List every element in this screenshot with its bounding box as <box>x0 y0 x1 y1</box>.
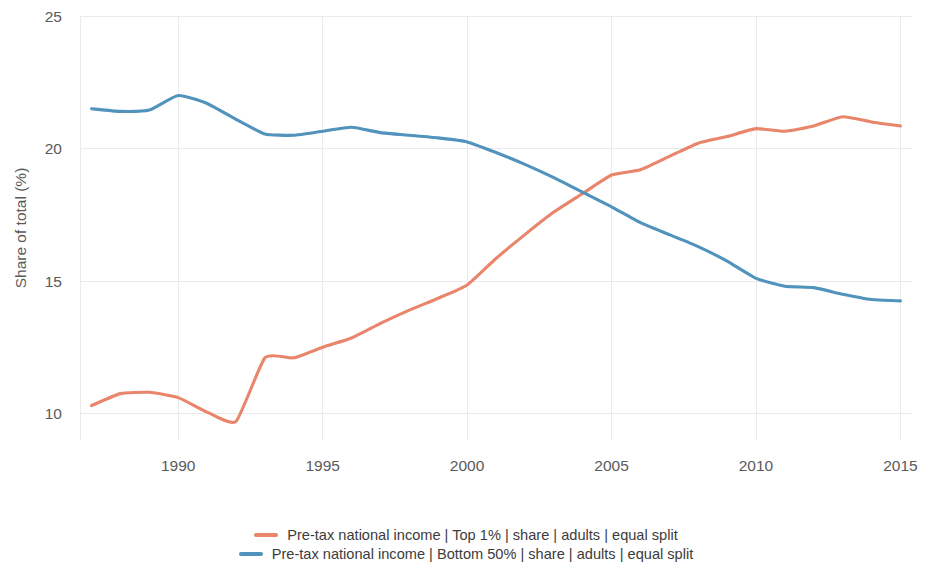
legend-item-bottom50[interactable]: Pre-tax national income | Bottom 50% | s… <box>239 546 694 562</box>
y-axis-ticks: 10152025 <box>45 8 63 423</box>
data-series <box>92 95 901 422</box>
legend-swatch-top1 <box>254 533 278 536</box>
chart-legend: Pre-tax national income | Top 1% | share… <box>0 527 932 562</box>
legend-item-top1[interactable]: Pre-tax national income | Top 1% | share… <box>254 527 678 543</box>
x-tick-label: 1995 <box>305 457 339 474</box>
y-tick-label: 20 <box>45 140 63 157</box>
y-tick-label: 15 <box>45 273 62 290</box>
series-line-bottom-50- <box>92 95 901 300</box>
x-tick-label: 2000 <box>450 457 485 474</box>
gridlines <box>80 16 912 440</box>
legend-swatch-bottom50 <box>239 552 263 555</box>
chart-container: 10152025 199019952000200520102015 Share … <box>0 0 932 584</box>
x-tick-label: 2010 <box>739 457 774 474</box>
x-axis-ticks: 199019952000200520102015 <box>161 457 918 474</box>
legend-label-bottom50: Pre-tax national income | Bottom 50% | s… <box>272 546 694 562</box>
line-chart-plot: 10152025 199019952000200520102015 Share … <box>0 0 932 584</box>
x-tick-label: 2015 <box>883 457 917 474</box>
x-tick-label: 2005 <box>594 457 628 474</box>
y-tick-label: 10 <box>45 405 63 422</box>
series-line-top-1- <box>92 117 901 423</box>
legend-label-top1: Pre-tax national income | Top 1% | share… <box>287 527 678 543</box>
y-axis-title: Share of total (%) <box>12 168 29 289</box>
x-tick-label: 1990 <box>161 457 196 474</box>
y-tick-label: 25 <box>45 8 62 25</box>
